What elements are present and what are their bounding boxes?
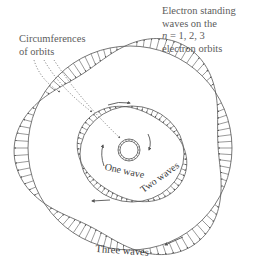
- orbit-n1: [118, 139, 140, 161]
- orbit-n3-standing-wave: [14, 39, 221, 255]
- circumferences-label: Circumferences of orbits: [19, 33, 85, 58]
- orbit-n2: [77, 106, 187, 202]
- orbit-n2-amplitude-arrows: [77, 106, 186, 202]
- orbit-n3: [14, 39, 232, 255]
- orbit-n3-amplitude-arrows: [14, 39, 232, 255]
- outer-direction-arrow: [108, 102, 130, 105]
- orbit-n1-circumference: [118, 139, 140, 161]
- title-n-values: = 1, 2, 3: [167, 30, 204, 41]
- circumferences-line-1: Circumferences: [19, 33, 85, 46]
- two-waves-direction-arrow: [92, 200, 110, 201]
- title-label: Electron standing waves on the n = 1, 2,…: [162, 5, 236, 55]
- right-inner-direction-arrow: [148, 134, 150, 150]
- left-inner-direction-arrow: [102, 145, 104, 166]
- orbit-n2-circumference: [80, 106, 184, 202]
- title-line-3: n = 1, 2, 3: [162, 30, 236, 43]
- orbit-n2-standing-wave: [77, 106, 187, 201]
- circumferences-line-2: of orbits: [19, 46, 85, 59]
- title-line-1: Electron standing: [162, 5, 236, 18]
- title-line-2: waves on the: [162, 18, 236, 31]
- leader-lines: [34, 60, 120, 138]
- three-waves-direction-arrow: [165, 237, 183, 245]
- title-line-4: electron orbits: [162, 43, 236, 56]
